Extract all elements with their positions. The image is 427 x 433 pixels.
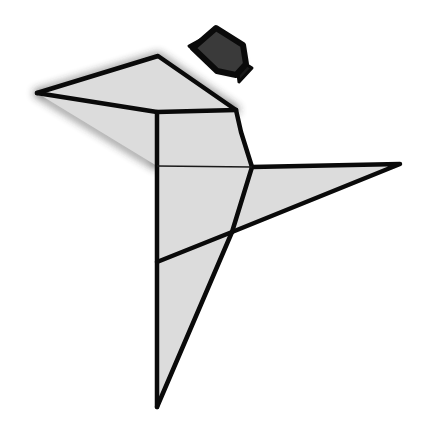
horizontal-body-fold-line — [157, 166, 252, 167]
origami-bird-figure — [0, 0, 427, 433]
illustration-canvas: Origami Bird Figure — [0, 0, 427, 433]
